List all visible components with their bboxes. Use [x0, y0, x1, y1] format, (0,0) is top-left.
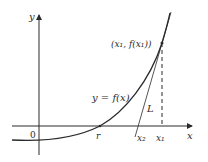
x-axis-label: x — [187, 130, 193, 141]
root-label: r — [96, 131, 101, 141]
root-point — [99, 125, 102, 128]
y-axis-label: y — [28, 11, 35, 22]
curve-label: y = f(x) — [91, 92, 130, 103]
function-curve — [12, 13, 170, 140]
newton-method-figure: y x 0 r y = f(x) (x₁, f(x₁)) L x₂ x₁ — [0, 0, 208, 162]
origin-label: 0 — [30, 130, 36, 140]
tangent-label: L — [146, 103, 154, 114]
x1-label: x₁ — [156, 133, 165, 143]
x2-label: x₂ — [137, 133, 146, 143]
tangent-line — [135, 12, 171, 137]
point-x1-fx1 — [161, 42, 164, 45]
point-label: (x₁, f(x₁)) — [111, 39, 152, 49]
